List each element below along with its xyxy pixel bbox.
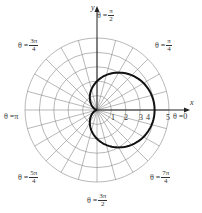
denominator: 4 [167,46,171,53]
angle-label-0: θ = 0 [173,113,187,121]
fraction: 7π4 [161,170,170,185]
r-tick-4: 4 [146,113,150,122]
angle-label-3pi-4: θ = 3π4 [18,38,38,53]
angle-label-7pi-4: θ = 7π4 [150,170,170,185]
fraction: π4 [166,38,172,53]
angle-value: π [14,113,18,121]
theta-prefix: θ = [18,174,28,182]
angle-label-3pi-2: θ = 3π2 [87,193,107,208]
fraction: 3π4 [29,38,38,53]
y-axis-label: y [91,3,95,12]
angle-label-5pi-4: θ = 5π4 [18,170,38,185]
denominator: 4 [164,178,168,185]
theta-prefix: θ = [97,12,107,20]
theta-prefix: θ = [87,197,97,205]
r-tick-1: 1 [111,113,115,122]
fraction: π2 [108,8,114,23]
theta-prefix: θ = [18,42,28,50]
denominator: 4 [32,46,36,53]
angle-label-pi: θ = π [4,113,18,121]
r-tick-2: 2 [124,113,128,122]
r-tick-3: 3 [139,113,143,122]
theta-prefix: θ = [4,113,14,121]
angle-label-pi-2: θ = π2 [97,8,114,23]
r-tick-5: 5 [166,113,170,122]
angle-label-pi-4: θ = π4 [155,38,172,53]
theta-prefix: θ = [150,174,160,182]
denominator: 2 [109,16,113,23]
x-axis-label: x [190,98,194,107]
theta-prefix: θ = [173,113,183,121]
fraction: 3π2 [98,193,107,208]
theta-prefix: θ = [155,42,165,50]
fraction: 5π4 [29,170,38,185]
angle-value: 0 [183,113,187,121]
denominator: 4 [32,178,36,185]
denominator: 2 [101,201,105,208]
